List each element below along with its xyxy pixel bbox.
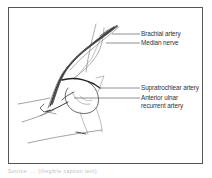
label-brachial-artery: Brachial artery xyxy=(141,30,181,37)
label-supratrochlear-artery: Supratrochlear artery xyxy=(141,84,199,91)
label-median-nerve: Median nerve xyxy=(141,39,179,46)
label-anterior-ulnar-line1: Anterior ulnar xyxy=(141,94,178,101)
brachial-artery-strand xyxy=(52,26,117,104)
anterior-ulnar-recurrent-branch xyxy=(62,92,74,100)
label-anterior-ulnar-line2: recurrent artery xyxy=(141,102,183,109)
supratrochlear-artery-branch xyxy=(62,78,100,88)
figure-caption: Source: ... (illegible caption text) xyxy=(8,168,204,174)
